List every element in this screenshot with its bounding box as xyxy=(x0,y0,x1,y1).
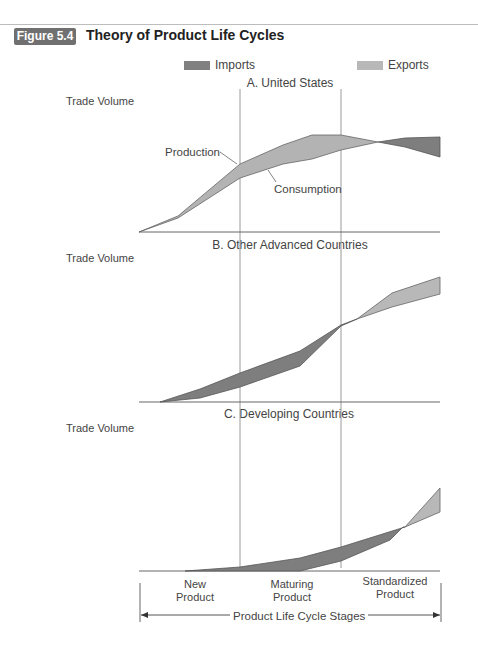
panel-c-title: C. Developing Countries xyxy=(224,407,354,421)
stage-maturing: Maturing Product xyxy=(262,578,322,604)
panel-b-exports-area xyxy=(357,277,440,319)
panel-a-title: A. United States xyxy=(247,76,334,90)
stage-new-line2: Product xyxy=(170,591,220,604)
production-label: Production xyxy=(165,146,220,158)
stage-maturing-line2: Product xyxy=(262,591,322,604)
panel-c-exports-area xyxy=(405,488,440,527)
stage-standardized-line1: Standardized xyxy=(355,575,435,588)
arrow-left-icon xyxy=(141,612,148,618)
chart-canvas: A. United States B. Other Advanced Count… xyxy=(0,0,478,650)
consumption-leader xyxy=(268,170,276,182)
panel-b-title: B. Other Advanced Countries xyxy=(212,238,367,252)
arrow-right-icon xyxy=(433,612,440,618)
panel-c-imports-area xyxy=(185,527,405,571)
consumption-label: Consumption xyxy=(274,183,342,195)
stage-standardized-line2: Product xyxy=(355,588,435,601)
stage-new: New Product xyxy=(170,578,220,604)
stage-standardized: Standardized Product xyxy=(355,575,435,601)
panel-a-imports-area xyxy=(378,137,440,157)
stage-new-line1: New xyxy=(170,578,220,591)
production-leader xyxy=(220,152,237,164)
x-axis-title: Product Life Cycle Stages xyxy=(230,610,368,622)
panel-b-imports-area xyxy=(160,319,357,402)
stage-maturing-line1: Maturing xyxy=(262,578,322,591)
